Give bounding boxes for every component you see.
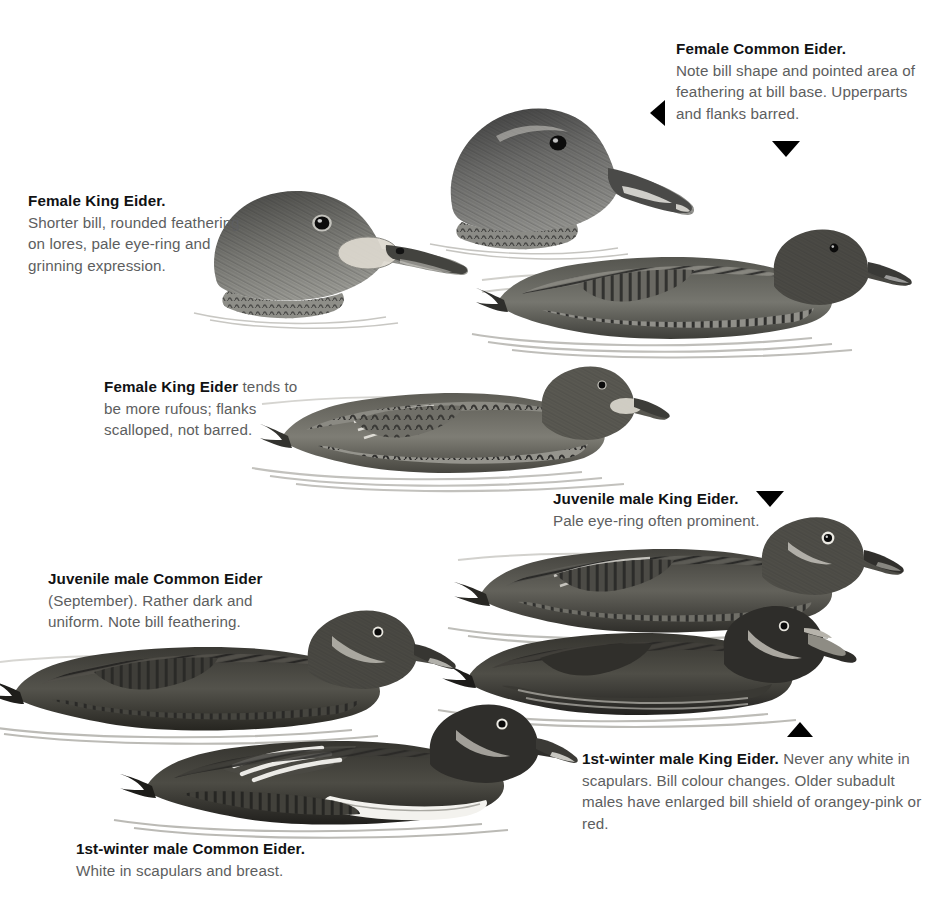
first-winter-male-king-eider-swimming-illustration [448, 606, 848, 726]
juvenile-male-king-eider-swimming-illustration [458, 512, 908, 652]
female-common-eider-swimming-illustration [482, 222, 912, 357]
caption-female-common-eider: Female Common Eider. Note bill shape and… [676, 38, 926, 124]
caption-female-king-eider: Female King Eider. Shorter bill, rounded… [28, 190, 240, 276]
caption-heading: 1st-winter male King Eider. [582, 750, 779, 767]
pointer-down-icon [772, 141, 800, 157]
illustration-plate: Female Common Eider. Note bill shape and… [0, 0, 940, 901]
caption-juvenile-male-common-eider: Juvenile male Common Eider (September). … [48, 568, 298, 633]
caption-juvenile-male-king-eider: Juvenile male King Eider. Pale eye-ring … [553, 488, 833, 531]
pointer-left-icon [650, 100, 665, 126]
caption-body: White in scapulars and breast. [76, 862, 283, 879]
female-king-eider-swimming-illustration [262, 360, 672, 490]
caption-heading: Female Common Eider. [676, 38, 926, 60]
caption-female-king-eider-rufous: Female King Eider tends to be more rufou… [104, 376, 314, 441]
caption-heading: Female King Eider [104, 378, 238, 395]
caption-body: Note bill shape and pointed area of feat… [676, 62, 915, 122]
first-winter-male-common-eider-swimming-illustration [130, 700, 550, 840]
caption-heading: Juvenile male Common Eider [48, 568, 298, 590]
pointer-up-icon [787, 722, 813, 737]
caption-body: Pale eye-ring often prominent. [553, 512, 759, 529]
caption-body: (September). Rather dark and uniform. No… [48, 592, 253, 631]
caption-heading: 1st-winter male Common Eider. [76, 838, 376, 860]
caption-first-winter-male-king-eider: 1st-winter male King Eider. Never any wh… [582, 748, 930, 834]
female-king-eider-head-illustration [200, 175, 490, 330]
caption-first-winter-male-common-eider: 1st-winter male Common Eider. White in s… [76, 838, 376, 881]
caption-heading: Female King Eider. [28, 190, 240, 212]
caption-heading: Juvenile male King Eider. [553, 488, 833, 510]
caption-body: Shorter bill, rounded feathering on lore… [28, 214, 240, 274]
